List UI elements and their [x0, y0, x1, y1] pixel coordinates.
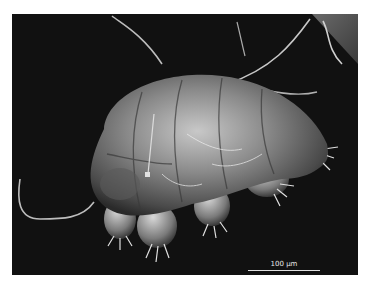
scale-bar: 100 µm [248, 260, 320, 271]
scale-bar-line [248, 270, 320, 271]
tardigrade-illustration [12, 14, 358, 275]
sem-image: 100 µm [12, 14, 358, 275]
scale-bar-label: 100 µm [248, 260, 320, 268]
